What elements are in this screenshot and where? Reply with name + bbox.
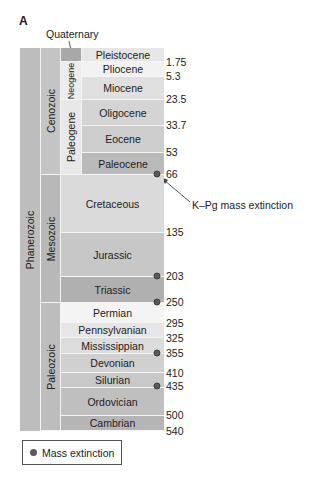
age-label: 203 bbox=[166, 270, 184, 282]
unit-label: Oligocene bbox=[99, 107, 146, 119]
unit-devonian: Devonian bbox=[61, 354, 164, 373]
unit-permian: Permian bbox=[61, 303, 164, 323]
unit-label: Jurassic bbox=[93, 249, 132, 261]
unit-miocene: Miocene bbox=[82, 77, 164, 100]
eon-label: Phanerozoic bbox=[24, 210, 36, 268]
unit-pennsylvanian: Pennsylvanian bbox=[61, 323, 164, 338]
age-label: 5.3 bbox=[166, 70, 181, 82]
unit-label: Pleistocene bbox=[96, 49, 150, 61]
mass-extinction-dot-icon bbox=[154, 350, 161, 357]
eon-phanerozoic: Phanerozoic bbox=[20, 48, 41, 431]
age-label: 33.7 bbox=[166, 119, 186, 131]
era-label: Mesozoic bbox=[45, 216, 57, 260]
unit-label: Mississippian bbox=[81, 340, 143, 352]
unit-pleistocene: Pleistocene bbox=[82, 48, 164, 62]
age-label: 23.5 bbox=[166, 93, 186, 105]
age-label: 295 bbox=[166, 317, 184, 329]
unit-label: Cambrian bbox=[90, 417, 136, 429]
age-label: 53 bbox=[166, 146, 178, 158]
unit-paleocene: Paleocene bbox=[82, 153, 164, 175]
period-label: Paleogene bbox=[65, 112, 77, 162]
unit-eocene: Eocene bbox=[82, 126, 164, 153]
unit-jurassic: Jurassic bbox=[61, 233, 164, 277]
unit-label: Eocene bbox=[105, 133, 141, 145]
era-paleozoic: Paleozoic bbox=[41, 303, 61, 431]
unit-cambrian: Cambrian bbox=[61, 416, 164, 431]
mass-extinction-dot-icon bbox=[30, 449, 37, 456]
age-label: 250 bbox=[166, 296, 184, 308]
unit-label: Pliocene bbox=[103, 63, 143, 75]
mass-extinction-dot-icon bbox=[154, 171, 161, 178]
period-label: Neogene bbox=[66, 62, 76, 99]
period-quaternary bbox=[61, 48, 82, 62]
age-label: 66 bbox=[166, 168, 178, 180]
age-label: 410 bbox=[166, 367, 184, 379]
unit-ordovician: Ordovician bbox=[61, 388, 164, 416]
unit-label: Paleocene bbox=[98, 158, 148, 170]
period-paleogene: Paleogene bbox=[61, 100, 82, 175]
unit-oligocene: Oligocene bbox=[82, 100, 164, 126]
period-neogene: Neogene bbox=[61, 62, 82, 100]
era-cenozoic: Cenozoic bbox=[41, 48, 61, 175]
unit-label: Pennsylvanian bbox=[78, 324, 146, 336]
unit-label: Triassic bbox=[95, 284, 131, 296]
unit-label: Ordovician bbox=[87, 396, 137, 408]
unit-triassic: Triassic bbox=[61, 277, 164, 303]
age-label: 1.75 bbox=[166, 56, 186, 68]
unit-label: Devonian bbox=[90, 357, 134, 369]
mass-extinction-dot-icon bbox=[154, 299, 161, 306]
era-label: Cenozoic bbox=[45, 89, 57, 133]
kpg-arrow-line bbox=[164, 180, 190, 202]
mass-extinction-dot-icon bbox=[154, 273, 161, 280]
kpg-extinction-label: K–Pg mass extinction bbox=[192, 199, 293, 211]
legend: Mass extinction bbox=[22, 440, 122, 465]
age-label: 325 bbox=[166, 332, 184, 344]
unit-silurian: Silurian bbox=[61, 373, 164, 388]
unit-label: Permian bbox=[93, 307, 132, 319]
unit-mississippian: Mississippian bbox=[61, 338, 164, 354]
era-label: Paleozoic bbox=[45, 344, 57, 390]
age-label: 500 bbox=[166, 409, 184, 421]
unit-cretaceous: Cretaceous bbox=[61, 175, 164, 233]
mass-extinction-dot-icon bbox=[154, 383, 161, 390]
age-label: 540 bbox=[166, 425, 184, 437]
unit-label: Miocene bbox=[103, 82, 143, 94]
age-label: 135 bbox=[166, 226, 184, 238]
age-label: 355 bbox=[166, 347, 184, 359]
legend-label: Mass extinction bbox=[42, 447, 114, 459]
unit-pliocene: Pliocene bbox=[82, 62, 164, 77]
unit-label: Silurian bbox=[95, 374, 130, 386]
era-mesozoic: Mesozoic bbox=[41, 175, 61, 303]
unit-label: Cretaceous bbox=[86, 198, 140, 210]
age-label: 435 bbox=[166, 380, 184, 392]
